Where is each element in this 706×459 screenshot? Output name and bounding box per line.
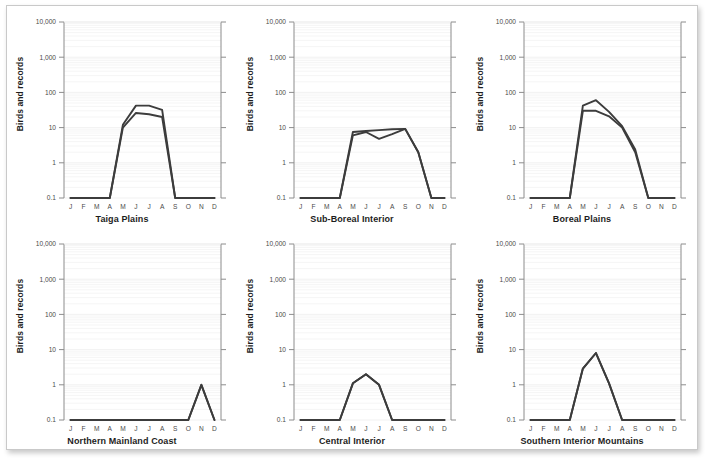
- x-tick-label: J: [364, 425, 367, 432]
- y-tick-label: 0.1: [277, 416, 286, 423]
- axis-bottom: JFMAMJJASOND: [529, 203, 677, 210]
- x-tick-label: N: [199, 425, 204, 432]
- x-tick-label: F: [82, 203, 86, 210]
- panel-title: Sub-Boreal Interior: [237, 214, 467, 224]
- x-tick-label: O: [416, 425, 421, 432]
- plot-background: [294, 244, 451, 420]
- panel-title: Southern Interior Mountains: [467, 436, 697, 446]
- y-axis-label-text: Birds and records: [15, 57, 25, 131]
- y-tick-label: 10: [49, 346, 57, 353]
- x-tick-label: M: [554, 425, 560, 432]
- y-tick-label: 10,000: [496, 18, 517, 25]
- axis-bottom: JFMAMJJASOND: [529, 425, 677, 432]
- plot-background: [524, 244, 681, 420]
- axis-right: [681, 244, 686, 420]
- y-tick-label: 1: [282, 381, 286, 388]
- axis-left: 10,0001,0001001010.1: [266, 240, 294, 423]
- panel-title: Boreal Plains: [467, 214, 697, 224]
- x-tick-label: M: [324, 203, 330, 210]
- x-tick-label: D: [672, 425, 677, 432]
- y-axis-label: Birds and records: [243, 6, 257, 182]
- x-tick-label: D: [442, 203, 447, 210]
- y-tick-label: 100: [505, 89, 516, 96]
- chart-panel: 10,0001,0001001010.1JFMAMJJASONDBirds an…: [237, 228, 467, 450]
- x-tick-label: S: [633, 203, 638, 210]
- y-tick-label: 1: [282, 159, 286, 166]
- x-tick-label: N: [429, 425, 434, 432]
- x-tick-label: J: [607, 425, 610, 432]
- y-tick-label: 10: [509, 346, 517, 353]
- x-tick-label: J: [134, 425, 137, 432]
- axis-left: 10,0001,0001001010.1: [36, 18, 64, 201]
- y-tick-label: 1,000: [499, 276, 516, 283]
- x-tick-label: J: [69, 425, 72, 432]
- x-tick-label: O: [186, 425, 191, 432]
- x-tick-label: F: [542, 425, 546, 432]
- y-tick-label: 1,000: [269, 54, 286, 61]
- x-tick-label: A: [568, 425, 573, 432]
- x-tick-label: O: [646, 203, 651, 210]
- plot-background: [64, 22, 221, 198]
- x-tick-label: F: [82, 425, 86, 432]
- y-axis-label: Birds and records: [473, 6, 487, 182]
- y-tick-label: 10: [49, 124, 57, 131]
- y-axis-label: Birds and records: [13, 6, 27, 182]
- x-tick-label: M: [350, 425, 356, 432]
- y-tick-label: 0.1: [507, 194, 516, 201]
- x-tick-label: A: [338, 425, 343, 432]
- x-tick-label: O: [416, 203, 421, 210]
- x-tick-label: J: [529, 425, 532, 432]
- x-tick-label: J: [299, 203, 302, 210]
- y-tick-label: 10: [279, 346, 287, 353]
- y-tick-label: 1,000: [269, 276, 286, 283]
- x-tick-label: S: [403, 425, 408, 432]
- panel-grid: 10,0001,0001001010.1JFMAMJJASONDBirds an…: [7, 6, 697, 449]
- axis-bottom: JFMAMJJASOND: [69, 425, 217, 432]
- x-tick-label: O: [186, 203, 191, 210]
- plot-background: [524, 22, 681, 198]
- panel-title: Taiga Plains: [7, 214, 237, 224]
- x-tick-label: M: [120, 203, 126, 210]
- x-tick-label: A: [160, 203, 165, 210]
- axis-left: 10,0001,0001001010.1: [266, 18, 294, 201]
- y-axis-label: Birds and records: [13, 228, 27, 404]
- axis-bottom: JFMAMJJASOND: [69, 203, 217, 210]
- y-tick-label: 100: [505, 311, 516, 318]
- axis-right: [451, 22, 456, 198]
- x-tick-label: A: [390, 203, 395, 210]
- x-tick-label: O: [646, 425, 651, 432]
- x-tick-label: M: [580, 203, 586, 210]
- x-tick-label: N: [429, 203, 434, 210]
- x-tick-label: S: [633, 425, 638, 432]
- x-tick-label: S: [173, 203, 178, 210]
- y-tick-label: 1: [52, 381, 56, 388]
- x-tick-label: F: [542, 203, 546, 210]
- y-tick-label: 1,000: [39, 276, 56, 283]
- chart-panel: 10,0001,0001001010.1JFMAMJJASONDBirds an…: [237, 6, 467, 228]
- y-tick-label: 100: [45, 311, 56, 318]
- y-tick-label: 1: [512, 381, 516, 388]
- y-tick-label: 1,000: [39, 54, 56, 61]
- x-tick-label: M: [94, 203, 100, 210]
- chart-plot: 10,0001,0001001010.1JFMAMJJASOND: [467, 6, 697, 228]
- x-tick-label: A: [160, 425, 165, 432]
- x-tick-label: A: [390, 425, 395, 432]
- x-tick-label: M: [554, 203, 560, 210]
- x-tick-label: A: [620, 425, 625, 432]
- y-tick-label: 10,000: [36, 240, 57, 247]
- x-tick-label: D: [212, 425, 217, 432]
- x-tick-label: D: [672, 203, 677, 210]
- x-tick-label: J: [377, 425, 380, 432]
- figure-page: 10,0001,0001001010.1JFMAMJJASONDBirds an…: [0, 0, 706, 459]
- y-tick-label: 0.1: [277, 194, 286, 201]
- y-axis-label-text: Birds and records: [245, 279, 255, 353]
- figure-frame: 10,0001,0001001010.1JFMAMJJASONDBirds an…: [6, 5, 698, 450]
- axis-right: [681, 22, 686, 198]
- axis-bottom: JFMAMJJASOND: [299, 203, 447, 210]
- x-tick-label: J: [134, 203, 137, 210]
- axis-right: [221, 244, 226, 420]
- x-tick-label: J: [147, 425, 150, 432]
- chart-plot: 10,0001,0001001010.1JFMAMJJASOND: [237, 228, 467, 450]
- x-tick-label: F: [312, 203, 316, 210]
- axis-left: 10,0001,0001001010.1: [496, 18, 524, 201]
